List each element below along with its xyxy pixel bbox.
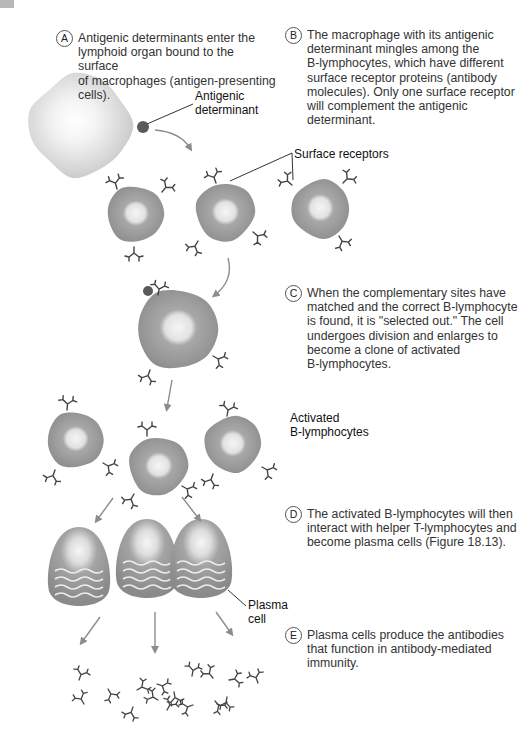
receptor-stroke	[245, 668, 266, 686]
antibody-receptor	[138, 422, 156, 436]
receptor-stroke	[142, 686, 162, 707]
label-antigenic-determinant: Antigenic determinant	[195, 90, 258, 117]
receptor-stroke	[99, 455, 120, 478]
receptor-stroke	[42, 467, 64, 486]
label-plasma-cell: Plasma cell	[248, 599, 288, 626]
antibody-receptor	[119, 490, 142, 511]
antibody-receptor	[218, 401, 238, 418]
receptor-stroke	[275, 169, 297, 192]
antibody-receptor	[58, 395, 77, 411]
free-antibody	[184, 661, 203, 677]
diagram: A Antigenic determinants enter the lymph…	[0, 0, 531, 736]
step-e-text: Plasma cells produce the antibodies that…	[307, 628, 531, 671]
arrow-curved-1	[155, 130, 190, 148]
receptor-stroke	[183, 237, 206, 258]
selected-b-lymphocyte	[138, 290, 218, 368]
receptor-stroke	[258, 459, 279, 482]
free-antibody	[142, 686, 162, 707]
receptor-stroke	[71, 665, 92, 683]
receptor-stroke	[198, 662, 220, 683]
receptor-stroke	[228, 669, 244, 688]
step-e: E Plasma cells produce the antibodies th…	[285, 628, 531, 671]
receptor-stroke	[184, 661, 203, 677]
step-c-text: When the complementary sites have matche…	[307, 286, 531, 371]
arrow-diag-right	[182, 497, 199, 519]
bound-antigen-dot	[143, 286, 153, 296]
receptor-stroke	[160, 694, 181, 714]
receptor-stroke	[120, 704, 141, 722]
receptor-stroke	[155, 175, 178, 197]
receptor-stroke	[101, 685, 122, 705]
antibody-receptor	[183, 237, 206, 258]
antibody-receptor	[155, 175, 178, 197]
step-d: D The activated B-lymphocytes will then …	[285, 507, 531, 550]
antibody-receptor	[200, 471, 222, 490]
receptor-stroke	[58, 395, 77, 411]
step-c: C When the complementary sites have matc…	[285, 286, 531, 371]
free-antibody	[70, 688, 91, 708]
free-antibody	[245, 668, 266, 686]
step-d-text: The activated B-lymphocytes will then in…	[307, 507, 531, 550]
antibody-receptor	[337, 167, 360, 190]
arrow-down-1	[167, 380, 172, 408]
leader-surface-receptor-1	[230, 153, 292, 181]
free-antibody	[160, 694, 181, 714]
step-c-badge: C	[285, 285, 302, 302]
antibody-receptor	[247, 225, 269, 248]
label-activated-b-lymphocytes: Activated B-lymphocytes	[290, 412, 369, 439]
antibody-receptor	[137, 367, 159, 386]
plasma-cell	[170, 519, 232, 598]
receptor-stroke	[137, 367, 159, 386]
plasma-cell	[116, 519, 178, 598]
step-d-badge: D	[285, 506, 302, 523]
activated-b-lymphocyte	[48, 413, 104, 468]
antibody-receptor	[203, 167, 225, 186]
b-lymphocyte	[108, 187, 164, 242]
receptor-stroke	[154, 676, 172, 697]
step-a-badge: A	[56, 30, 73, 47]
receptor-stroke	[133, 676, 153, 697]
antibody-receptor	[125, 247, 143, 261]
antigenic-determinant-dot	[137, 121, 149, 133]
receptor-stroke	[200, 471, 222, 490]
antibody-receptor	[209, 348, 230, 371]
receptor-stroke	[70, 688, 91, 708]
receptor-stroke	[119, 490, 142, 511]
free-antibody	[198, 662, 220, 683]
free-antibody	[228, 669, 244, 688]
receptor-stroke	[218, 401, 238, 418]
step-b-badge: B	[285, 27, 302, 44]
label-surface-receptors: Surface receptors	[294, 148, 389, 162]
free-antibody	[71, 665, 92, 683]
b-lymphocyte	[291, 179, 349, 239]
arrow-plasma-3	[216, 612, 231, 633]
leader-antigenic-determinant	[147, 104, 193, 124]
free-antibody	[120, 704, 141, 722]
antibody-receptor	[258, 459, 279, 482]
b-lymphocyte	[196, 184, 255, 242]
antibody-receptor	[42, 467, 64, 486]
plasma-cell	[48, 527, 110, 606]
leader-plasma-cell	[228, 590, 246, 606]
activated-b-lymphocyte	[129, 438, 188, 495]
arrow-diag-left	[97, 498, 113, 520]
antibody-receptor	[275, 169, 297, 192]
receptor-stroke	[125, 247, 143, 261]
step-b: B The macrophage with its antigenic dete…	[285, 28, 531, 127]
receptor-stroke	[203, 167, 225, 186]
receptor-stroke	[337, 167, 360, 190]
receptor-stroke	[209, 348, 230, 371]
arrow-plasma-1	[82, 617, 100, 642]
leader-surface-receptor-2	[292, 153, 293, 180]
antibody-receptor	[99, 455, 120, 478]
arrow-curved-2	[215, 258, 229, 295]
receptor-stroke	[247, 225, 269, 248]
receptor-stroke	[138, 422, 156, 436]
step-b-text: The macrophage with its antigenic determ…	[307, 28, 531, 127]
free-antibody	[101, 685, 122, 705]
activated-b-lymphocyte	[204, 416, 261, 473]
free-antibody	[154, 676, 172, 697]
step-e-badge: E	[285, 627, 302, 644]
free-antibody	[133, 676, 153, 697]
